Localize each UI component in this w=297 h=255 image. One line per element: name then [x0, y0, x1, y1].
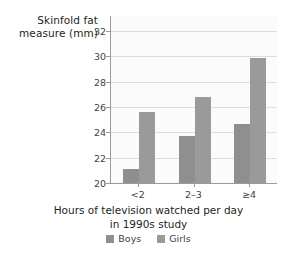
- x-axis-title-line-2: in 1990s study: [0, 218, 297, 232]
- legend-label-boys: Boys: [118, 233, 141, 244]
- x-axis-tick-label: ≥4: [219, 189, 279, 200]
- plot-inner: [111, 16, 277, 183]
- bar-boys-0: [123, 169, 139, 183]
- x-axis-tick-mark: [138, 184, 139, 187]
- x-axis-tick-label: <2: [108, 189, 168, 200]
- bar-boys-1: [179, 136, 195, 183]
- legend-swatch-girls: [157, 235, 165, 243]
- legend-label-girls: Girls: [169, 233, 191, 244]
- chart-figure: Skinfold fat measure (mm) 20222426283032…: [0, 0, 297, 255]
- y-axis-tick-label: 28: [78, 76, 106, 87]
- bar-girls-1: [195, 97, 211, 183]
- plot-area: [110, 16, 277, 183]
- bar-girls-2: [250, 58, 266, 183]
- x-axis-title-line-1: Hours of television watched per day: [0, 204, 297, 218]
- y-axis-tick-label: 20: [78, 178, 106, 189]
- legend-item-girls: Girls: [157, 233, 191, 244]
- x-axis-tick-label: 2–3: [164, 189, 224, 200]
- bar-boys-2: [234, 124, 250, 183]
- y-axis-tick-label: 30: [78, 51, 106, 62]
- y-axis-tick-label: 32: [78, 26, 106, 37]
- chart-legend: BoysGirls: [0, 233, 297, 244]
- legend-swatch-boys: [106, 235, 114, 243]
- x-axis-tick-mark: [194, 184, 195, 187]
- x-axis-title: Hours of television watched per day in 1…: [0, 204, 297, 231]
- y-axis-tick-label: 26: [78, 102, 106, 113]
- y-axis-tick-label: 22: [78, 152, 106, 163]
- bar-girls-0: [139, 112, 155, 183]
- x-axis-tick-mark: [249, 184, 250, 187]
- legend-item-boys: Boys: [106, 233, 141, 244]
- y-axis-tick-label: 24: [78, 127, 106, 138]
- gridline: [111, 31, 277, 32]
